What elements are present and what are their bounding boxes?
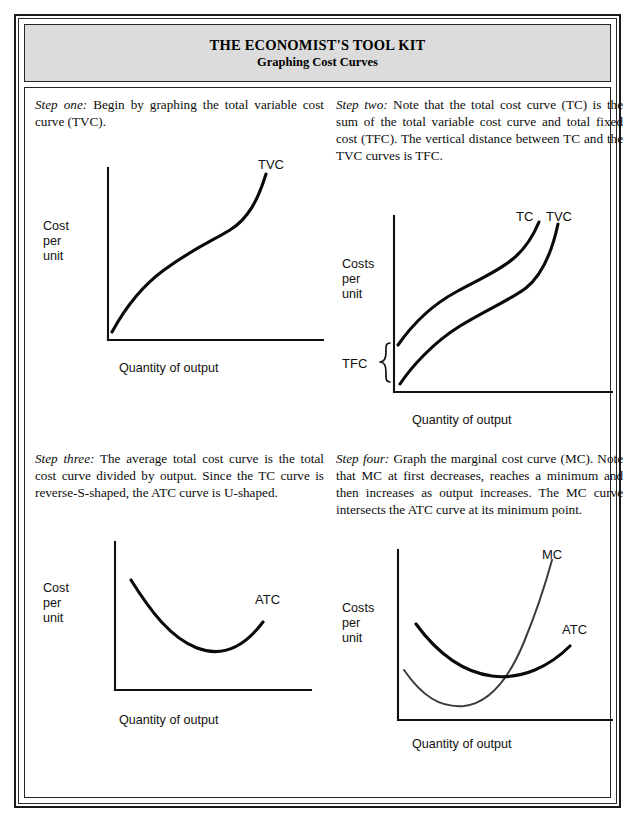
step-two-label: Step two: (336, 97, 388, 112)
step-one-label: Step one: (35, 97, 87, 112)
chart-mc-atc-curve-label-mc: MC (542, 547, 562, 562)
chart-tvc-ylabel-line-1: Cost (43, 219, 69, 233)
step-two-cell: Step two: Note that the total cost curve… (336, 96, 623, 448)
chart-atc-curve-atc (131, 580, 263, 652)
chart-tc-tvc-curve-label-tvc: TVC (546, 209, 572, 224)
chart-atc-ylabel-line-1: Cost (43, 581, 69, 595)
chart-tc-tvc-xlabel: Quantity of output (412, 413, 512, 427)
tool-kit-panel: THE ECONOMIST'S TOOL KIT Graphing Cost C… (14, 14, 621, 808)
tfc-brace-icon (380, 343, 390, 382)
panel-title: THE ECONOMIST'S TOOL KIT (210, 36, 426, 54)
step-four-text: Step four: Graph the marginal cost curve… (336, 450, 623, 519)
chart-mc-atc-ylabel-line-2: per (342, 616, 360, 630)
chart-mc-atc-ylabel-line-3: unit (342, 631, 363, 645)
chart-tvc-ylabel-line-2: per (43, 234, 61, 248)
panel-subtitle: Graphing Cost Curves (257, 55, 378, 71)
panel-header: THE ECONOMIST'S TOOL KIT Graphing Cost C… (24, 24, 611, 82)
chart-atc-ylabel-line-2: per (43, 596, 61, 610)
chart-tvc-ylabel-line-3: unit (43, 249, 64, 263)
panel-inner-border: THE ECONOMIST'S TOOL KIT Graphing Cost C… (18, 18, 617, 804)
chart-tc-tvc-ylabel-line-3: unit (342, 287, 363, 301)
step-three-text: Step three: The average total cost curve… (35, 450, 324, 501)
chart-tc-tvc-ylabel-line-2: per (342, 272, 360, 286)
chart-tc-tvc-annotation-tfc: TFC (342, 356, 367, 371)
steps-grid: Step one: Begin by graphing the total va… (25, 88, 610, 797)
chart-tvc-curve-label-tvc: TVC (258, 157, 284, 172)
chart-mc-atc-xlabel: Quantity of output (412, 737, 512, 751)
chart-mc-atc-curve-atc (416, 624, 570, 677)
step-four-cell: Step four: Graph the marginal cost curve… (336, 450, 623, 800)
step-one-cell: Step one: Begin by graphing the total va… (35, 96, 324, 448)
chart-atc-curve-label-atc: ATC (255, 592, 280, 607)
chart-tc-tvc-curve-tc (398, 222, 539, 345)
chart-atc: Cost per unit ATC Quantity of output (35, 528, 324, 738)
chart-mc-atc-curve-mc (404, 560, 552, 706)
chart-atc-xlabel: Quantity of output (119, 713, 219, 727)
step-four-label: Step four: (336, 451, 389, 466)
chart-mc-atc-curve-label-atc: ATC (562, 622, 587, 637)
chart-tvc-xlabel: Quantity of output (119, 361, 219, 375)
step-three-cell: Step three: The average total cost curve… (35, 450, 324, 800)
chart-mc-atc: Costs per unit MC ATC Qu (336, 542, 623, 756)
chart-tc-tvc: Costs per unit TC TVC (336, 206, 623, 432)
chart-tvc-curve-tvc (112, 174, 266, 332)
step-three-label: Step three: (35, 451, 94, 466)
chart-atc-ylabel-line-3: unit (43, 611, 64, 625)
step-two-text: Step two: Note that the total cost curve… (336, 96, 623, 165)
chart-tc-tvc-curve-label-tc: TC (516, 209, 533, 224)
chart-tc-tvc-curve-tvc (400, 224, 558, 384)
chart-tc-tvc-ylabel-line-1: Costs (342, 257, 374, 271)
step-one-text: Step one: Begin by graphing the total va… (35, 96, 324, 130)
panel-body: Step one: Begin by graphing the total va… (24, 87, 611, 798)
chart-tvc: Cost per unit TVC Quantity of output (35, 154, 324, 380)
chart-mc-atc-ylabel-line-1: Costs (342, 601, 374, 615)
